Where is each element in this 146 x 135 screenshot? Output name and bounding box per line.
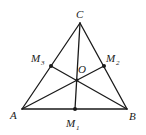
label-m1: M [65, 117, 76, 129]
label-m2-sub: 2 [116, 59, 120, 67]
diagram-svg: C A B O M 1 M 3 M 2 [0, 0, 146, 135]
label-m3-sub: 3 [40, 59, 45, 67]
triangle-medians-diagram: C A B O M 1 M 3 M 2 [0, 0, 146, 135]
point-m1 [73, 107, 77, 111]
label-a: A [9, 109, 17, 121]
label-m2: M [105, 52, 116, 64]
point-o [75, 78, 78, 81]
point-m3 [49, 64, 53, 68]
point-m2 [102, 64, 106, 68]
label-o: O [78, 63, 86, 75]
label-m1-sub: 1 [76, 124, 80, 132]
label-b: B [129, 110, 136, 122]
label-c: C [76, 8, 84, 20]
label-m3: M [30, 52, 41, 64]
